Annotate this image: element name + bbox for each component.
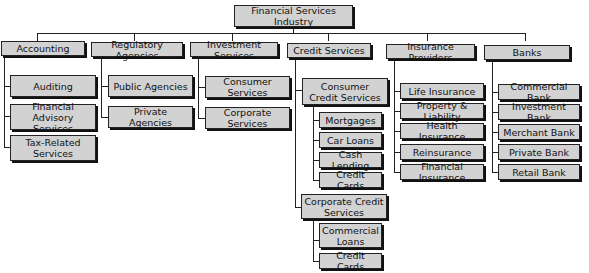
node-consumer-credit-services: Consumer Credit Services: [302, 78, 388, 105]
node-private-bank: Private Bank: [498, 144, 580, 160]
connector: [37, 33, 38, 41]
connector: [4, 56, 5, 148]
node-investment-services: Investment Services: [190, 42, 278, 57]
connector: [394, 56, 395, 173]
node-property-liability: Property & Liability: [400, 103, 484, 119]
node-commercial-bank: Commercial Bank: [498, 84, 580, 100]
node-commercial-loans: Commercial Loans: [319, 223, 382, 248]
node-car-loans: Car Loans: [319, 132, 382, 148]
node-merchant-bank: Merchant Bank: [498, 124, 580, 140]
node-auditing: Auditing: [10, 75, 96, 97]
node-credit-services: Credit Services: [287, 43, 371, 58]
connector: [328, 33, 329, 41]
node-retail-bank: Retail Bank: [498, 164, 580, 180]
node-cash-lending: Cash Lending: [319, 152, 382, 168]
connector: [313, 105, 314, 181]
node-public-agencies: Public Agencies: [108, 75, 193, 97]
node-banks: Banks: [484, 45, 570, 60]
node-insurance-providers: Insurance Providers: [386, 44, 475, 59]
connector: [101, 56, 102, 118]
node-corporate-services: Corporate Services: [205, 107, 290, 129]
connector: [525, 33, 526, 41]
node-credit-cards-consumer: Credit Cards: [319, 172, 382, 188]
node-reinsurance: Reinsurance: [400, 144, 484, 160]
connector: [295, 90, 302, 91]
node-corporate-credit-services: Corporate Credit Services: [301, 194, 387, 219]
node-consumer-services: Consumer Services: [205, 76, 290, 98]
connector: [37, 33, 526, 34]
connector: [198, 118, 205, 119]
node-financial-advisory-services: Financial Advisory Services: [10, 104, 96, 130]
node-mortgages: Mortgages: [319, 112, 382, 128]
node-health-insurance: Health Insurance: [400, 123, 484, 139]
connector: [198, 87, 205, 88]
connector: [101, 117, 108, 118]
node-investment-bank: Investment Bank: [498, 104, 580, 120]
node-life-insurance: Life Insurance: [400, 83, 484, 99]
org-chart: Financial Services Industry Accounting R…: [0, 0, 589, 273]
connector: [101, 86, 108, 87]
node-private-agencies: Private Agencies: [108, 106, 193, 128]
node-financial-insurance: Financial Insurance: [400, 164, 484, 180]
node-accounting: Accounting: [1, 41, 85, 56]
node-credit-cards-corporate: Credit Cards: [319, 253, 382, 269]
node-tax-related-services: Tax-Related Services: [10, 135, 96, 161]
connector: [492, 56, 493, 173]
root-node: Financial Services Industry: [234, 5, 353, 27]
connector: [295, 56, 296, 208]
node-regulatory-agencies: Regulatory Agencies: [91, 42, 183, 57]
